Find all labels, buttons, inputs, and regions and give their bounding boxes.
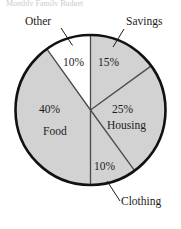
slice-name-housing: Housing (107, 119, 146, 131)
callout-label-savings: Savings (126, 15, 162, 27)
slice-percent-savings: 15% (98, 56, 119, 68)
leader-line-clothing (107, 181, 120, 201)
slice-name-food: Food (43, 125, 67, 137)
pie-chart-figure: Monthly Family Budget Other Savings Clot… (0, 0, 181, 229)
slice-percent-other: 10% (63, 56, 84, 68)
callout-label-other: Other (25, 15, 51, 27)
slice-percent-food: 40% (39, 103, 60, 115)
slice-percent-clothing: 10% (94, 160, 115, 172)
callout-label-clothing: Clothing (121, 195, 161, 207)
slice-percent-housing: 25% (112, 103, 133, 115)
